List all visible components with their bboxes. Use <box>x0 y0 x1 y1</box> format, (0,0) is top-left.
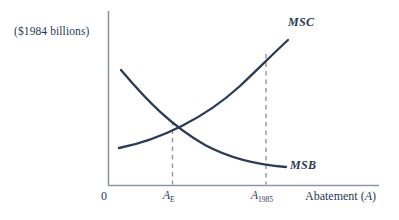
x-axis-title-variable: A <box>365 189 372 203</box>
msb-curve <box>121 70 286 167</box>
x-axis-title-text: Abatement ( <box>305 189 365 203</box>
abatement-cost-benefit-figure: ($1984 billions) 0 AE A1985 Abatement (A… <box>0 0 399 220</box>
tick-a1985-subscript: 1985 <box>258 195 273 204</box>
series-label-msb: MSB <box>290 159 316 171</box>
tick-ae-base: A <box>163 189 170 201</box>
y-axis-unit-label: ($1984 billions) <box>14 26 89 38</box>
tick-a1985-base: A <box>251 189 258 201</box>
tick-ae-subscript: E <box>170 195 175 204</box>
x-axis-title-close: ) <box>372 189 376 203</box>
origin-tick-label: 0 <box>101 190 107 202</box>
series-label-msc: MSC <box>288 16 314 28</box>
x-tick-label-a1985: A1985 <box>251 190 273 204</box>
x-axis-title: Abatement (A) <box>305 190 376 202</box>
msc-curve <box>119 40 288 148</box>
x-tick-label-ae: AE <box>163 190 175 204</box>
